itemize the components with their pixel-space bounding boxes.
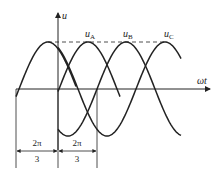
dimension-1-denominator: 3 — [35, 154, 40, 164]
wave-label-c: uC — [164, 28, 174, 41]
wave-label-b: uB — [123, 28, 133, 41]
waveform-a — [58, 42, 120, 97]
x-axis-label: ωt — [197, 75, 207, 86]
three-phase-diagram: 2π 3 2π 3 u ωt uA uB uC — [0, 0, 219, 182]
dimension-2-numerator: 2π — [72, 138, 82, 148]
dimension-2-denominator: 3 — [75, 154, 80, 164]
y-axis-label: u — [62, 10, 67, 21]
dimension-1-numerator: 2π — [32, 138, 42, 148]
wave-label-a: uA — [85, 28, 95, 41]
